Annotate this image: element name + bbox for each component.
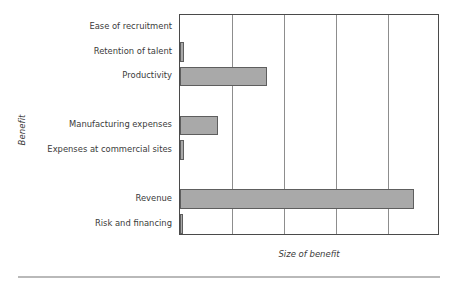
category-label: Expenses at commercial sites: [47, 144, 172, 154]
bar-chart-figure: Benefit Ease of recruitmentRetention of …: [0, 0, 458, 283]
category-label: Manufacturing expenses: [69, 119, 172, 129]
bar-fill: [180, 116, 218, 136]
bar-fill: [180, 42, 184, 62]
category-label-row: Revenue: [26, 186, 176, 211]
bar-risk-and-financing: [180, 214, 183, 234]
category-label-column: Ease of recruitmentRetention of talentPr…: [26, 14, 176, 235]
category-label-row: Ease of recruitment: [26, 14, 176, 39]
category-label: Retention of talent: [94, 46, 172, 56]
category-label: Risk and financing: [95, 218, 172, 228]
bar-manufacturing-expenses: [180, 116, 218, 136]
category-label-row: Risk and financing: [26, 210, 176, 235]
x-axis-title: Size of benefit: [179, 249, 439, 259]
category-label: Productivity: [122, 70, 172, 80]
bar-expenses-at-commercial-sites: [180, 140, 184, 160]
bar-productivity: [180, 67, 267, 87]
category-label-row: Retention of talent: [26, 39, 176, 64]
category-label: Ease of recruitment: [89, 21, 172, 31]
category-label-row: Expenses at commercial sites: [26, 137, 176, 162]
bar-fill: [180, 214, 183, 234]
category-label-row: Productivity: [26, 63, 176, 88]
bar-revenue: [180, 189, 414, 209]
bar-retention-of-talent: [180, 42, 184, 62]
category-label-row: Manufacturing expenses: [26, 112, 176, 137]
category-label: Revenue: [136, 193, 172, 203]
bar-fill: [180, 140, 184, 160]
footer-divider: [18, 276, 440, 278]
bar-fill: [180, 67, 267, 87]
bar-fill: [180, 189, 414, 209]
plot-area: [179, 14, 439, 235]
